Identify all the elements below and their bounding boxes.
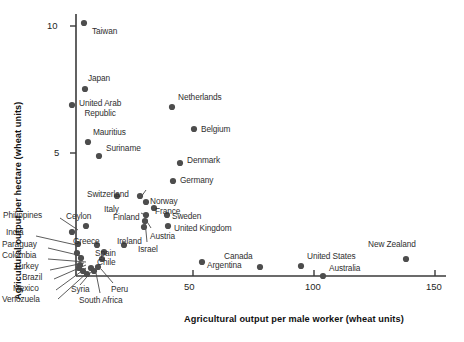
point-label-suriname: Suriname <box>106 144 141 154</box>
x-axis-title: Agricultural output per male worker (whe… <box>184 314 404 324</box>
point-label-japan: Japan <box>88 74 110 84</box>
point-label-austria: Austria <box>150 232 175 242</box>
data-point-japan[interactable] <box>82 86 88 92</box>
data-point-mauritius[interactable] <box>85 139 91 145</box>
x-tick-label-150: 150 <box>426 281 442 292</box>
data-point-new-zealand[interactable] <box>403 256 409 262</box>
point-label-south-africa: South Africa <box>79 296 123 306</box>
point-label-new-zealand: New Zealand <box>368 240 416 250</box>
leader-line-israel <box>145 221 147 242</box>
data-point-finland[interactable] <box>143 212 149 218</box>
point-label-belgium: Belgium <box>201 125 230 135</box>
x-tick-label-100: 100 <box>305 281 321 292</box>
point-label-united-arab-republic: United Arab Republic <box>79 99 121 118</box>
point-label-sweden: Sweden <box>172 212 201 222</box>
chart-canvas <box>0 0 464 342</box>
leader-line-india <box>36 236 76 245</box>
point-label-chile: Chile <box>97 258 115 268</box>
data-point-norway[interactable] <box>143 199 149 205</box>
point-label-ireland: Ireland <box>117 237 142 247</box>
data-point-south-africa[interactable] <box>91 268 97 274</box>
point-label-switzerland: Switzerland <box>87 190 129 200</box>
data-point-venozuela[interactable] <box>84 271 90 277</box>
point-label-canada: Canada <box>224 252 252 262</box>
data-point-suriname[interactable] <box>96 153 102 159</box>
x-tick-label-50: 50 <box>184 281 195 292</box>
data-point-ceylon[interactable] <box>83 223 89 229</box>
point-label-greece: Greece <box>73 237 100 247</box>
point-label-united-states: United States <box>307 252 356 262</box>
data-point-israel[interactable] <box>141 224 147 230</box>
data-point-paraguay[interactable] <box>74 250 80 256</box>
data-point-united-states[interactable] <box>298 263 304 269</box>
data-point-colombia[interactable] <box>78 255 84 261</box>
data-point-united-kingdom[interactable] <box>165 223 171 229</box>
data-point-switzerland[interactable] <box>137 193 143 199</box>
data-point-belgium[interactable] <box>191 126 197 132</box>
point-label-taiwan: Taiwan <box>92 27 117 37</box>
data-point-germany[interactable] <box>170 178 176 184</box>
data-point-australia[interactable] <box>320 273 326 279</box>
point-label-denmark: Denmark <box>187 156 220 166</box>
point-label-syria: Syria <box>71 285 89 295</box>
point-label-brazil: Brazil <box>22 273 42 283</box>
y-axis-title: Agricultural output per hectare (wheat u… <box>13 102 23 300</box>
data-point-united-arab-republic[interactable] <box>69 102 75 108</box>
scatter-plot: TaiwanJapanUnited Arab RepublicMauritius… <box>0 0 464 342</box>
data-point-argentina[interactable] <box>199 259 205 265</box>
data-point-philippines[interactable] <box>69 229 75 235</box>
y-tick-label-5: 5 <box>54 147 59 158</box>
point-label-ceylon: Ceylon <box>66 212 91 222</box>
point-label-germany: Germany <box>180 176 213 186</box>
data-point-canada[interactable] <box>257 264 263 270</box>
data-point-taiwan[interactable] <box>81 20 87 26</box>
point-label-argentina: Argentina <box>207 261 242 271</box>
y-tick-label-10: 10 <box>47 20 58 31</box>
point-label-peru: Peru <box>111 285 128 295</box>
data-point-austria[interactable] <box>142 218 148 224</box>
point-label-australia: Australia <box>329 264 360 274</box>
point-label-finland: Finland <box>113 213 140 223</box>
point-label-mauritius: Mauritius <box>93 128 126 138</box>
point-label-united-kingdom: United Kingdom <box>174 224 232 234</box>
data-point-denmark[interactable] <box>177 160 183 166</box>
data-point-netherlands[interactable] <box>169 104 175 110</box>
point-label-netherlands: Netherlands <box>178 93 222 103</box>
